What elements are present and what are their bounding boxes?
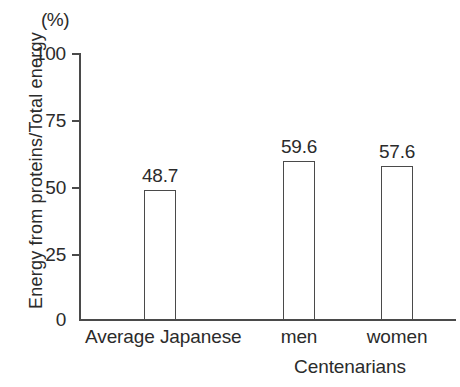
x-axis-group-label: Centenarians xyxy=(255,356,445,378)
bar-men xyxy=(283,161,315,320)
bar-value-average-japanese: 48.7 xyxy=(125,166,195,185)
y-tick-label-0: 0 xyxy=(6,310,66,329)
y-tick-mark-75 xyxy=(72,120,80,122)
y-tick-mark-25 xyxy=(72,254,80,256)
x-category-label-men: men xyxy=(259,326,339,348)
bar-value-men: 59.6 xyxy=(264,137,334,156)
y-tick-label-25: 25 xyxy=(6,245,66,264)
y-tick-mark-50 xyxy=(72,187,80,189)
y-tick-label-50: 50 xyxy=(6,178,66,197)
bar-women xyxy=(381,166,413,320)
y-tick-mark-100 xyxy=(72,53,80,55)
x-category-label-average-japanese: Average Japanese xyxy=(85,326,235,348)
bar-value-women: 57.6 xyxy=(362,142,432,161)
y-tick-label-100: 100 xyxy=(6,44,66,63)
y-tick-label-75: 75 xyxy=(6,111,66,130)
x-category-label-women: women xyxy=(352,326,442,348)
bar-average-japanese xyxy=(144,190,176,320)
bar-chart: (%) Energy from proteins/Total energy 10… xyxy=(0,0,460,387)
